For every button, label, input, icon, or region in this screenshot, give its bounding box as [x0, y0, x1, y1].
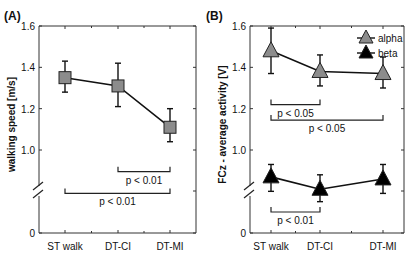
- y-tick-label: 1.0: [21, 145, 35, 156]
- y-tick-label: 1.0: [232, 145, 246, 156]
- legend-marker-beta: [359, 45, 373, 58]
- x-tick-label: DT-CI: [105, 241, 131, 252]
- x-tick-label: DT-MI: [156, 241, 183, 252]
- significance-label: p < 0.05: [277, 108, 314, 119]
- triangle-marker: [263, 168, 279, 183]
- significance-label: p < 0.01: [277, 215, 314, 226]
- legend-label-alpha: alpha: [378, 33, 403, 44]
- legend-label-beta: beta: [378, 48, 398, 59]
- triangle-marker: [375, 65, 391, 80]
- x-tick-label: DT-CI: [307, 241, 333, 252]
- panel-a: (A)01.01.21.41.6ST walkDT-CIDT-MIwalking…: [4, 9, 196, 252]
- panel-b: (B)01.01.21.41.6ST walkDT-CIDT-MIFCz - a…: [206, 9, 404, 252]
- y-tick-label: 0: [29, 228, 35, 239]
- square-marker: [59, 72, 71, 84]
- panel-label: (B): [206, 9, 223, 23]
- significance-bracket: [271, 100, 320, 105]
- x-tick-label: ST walk: [47, 241, 83, 252]
- y-tick-label: 1.4: [232, 62, 246, 73]
- triangle-marker: [263, 42, 279, 57]
- significance-label: p < 0.05: [309, 123, 346, 134]
- x-tick-label: DT-MI: [369, 241, 396, 252]
- axis-break-mark: [244, 182, 254, 190]
- y-tick-label: 1.4: [21, 62, 35, 73]
- legend-marker-alpha: [359, 30, 373, 43]
- significance-bracket: [118, 167, 170, 172]
- y-tick-label: 1.6: [232, 21, 246, 32]
- significance-label: p < 0.01: [99, 196, 136, 207]
- significance-bracket: [271, 207, 320, 212]
- panel-label: (A): [4, 9, 21, 23]
- y-axis-label: walking speed [m/s]: [6, 77, 17, 173]
- axis-break-mark: [33, 182, 43, 190]
- y-tick-label: 0: [240, 228, 246, 239]
- series-line: [271, 177, 383, 189]
- y-axis-label: FCz - average activity [V]: [217, 65, 228, 183]
- figure: (A)01.01.21.41.6ST walkDT-CIDT-MIwalking…: [0, 0, 412, 264]
- square-marker: [164, 121, 176, 133]
- significance-label: p < 0.01: [126, 175, 163, 186]
- axis-break-mark: [244, 190, 254, 198]
- x-tick-label: ST walk: [253, 241, 289, 252]
- y-tick-label: 1.2: [232, 104, 246, 115]
- square-marker: [112, 80, 124, 92]
- significance-bracket: [65, 188, 170, 193]
- y-tick-label: 1.2: [21, 104, 35, 115]
- triangle-marker: [375, 170, 391, 185]
- y-tick-label: 1.6: [21, 21, 35, 32]
- axis-break-mark: [33, 190, 43, 198]
